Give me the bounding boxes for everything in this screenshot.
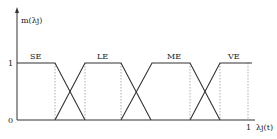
y-tick-0: 0 <box>8 116 13 125</box>
y-tick-1: 1 <box>8 59 13 68</box>
dotted-guides <box>55 63 248 120</box>
y-axis-label: m(λj) <box>21 16 42 25</box>
set-label-me: ME <box>167 52 181 61</box>
x-axis-label: λj(t) <box>256 123 273 132</box>
x-tick-1: 1 <box>246 123 251 132</box>
fuzzy-membership-diagram: m(λj) 1 0 SE LE ME VE 1 λj(t) <box>0 0 277 139</box>
set-label-ve: VE <box>227 52 240 61</box>
set-label-le: LE <box>97 52 108 61</box>
set-se-curve <box>17 63 85 120</box>
set-ve-curve <box>190 63 252 120</box>
y-axis-arrow-icon <box>15 7 19 13</box>
set-label-se: SE <box>30 52 41 61</box>
